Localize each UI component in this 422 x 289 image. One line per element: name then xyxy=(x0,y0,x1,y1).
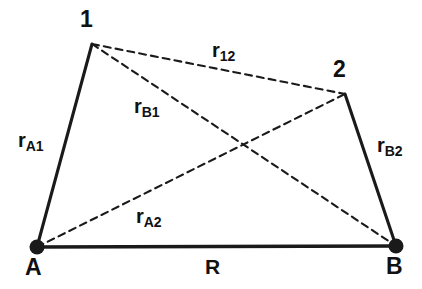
edge-label-base: r xyxy=(18,129,26,151)
edge-label-subscript: B1 xyxy=(142,104,160,120)
edge-label-subscript: A1 xyxy=(26,138,44,154)
edge-label-base: r xyxy=(377,134,385,156)
edge-label-base: r xyxy=(136,205,144,227)
edge-label-r-12: r12 xyxy=(212,40,235,60)
edge-A1 xyxy=(37,44,92,247)
edge-label-subscript: A2 xyxy=(144,214,162,230)
vertex-label-A: A xyxy=(25,256,42,279)
edge-label-subscript: 12 xyxy=(220,48,235,64)
vertex-label-2: 2 xyxy=(333,58,346,81)
vertex-label-1: 1 xyxy=(80,8,93,31)
edge-label-r-B1: rB1 xyxy=(134,96,159,116)
edge-label-r-A2: rA2 xyxy=(136,206,161,226)
edge-AB xyxy=(37,246,396,247)
edge-label-r-A1: rA1 xyxy=(18,130,43,150)
diagram-svg xyxy=(0,0,422,289)
edge-label-base: r xyxy=(134,95,142,117)
edge-label-subscript: B2 xyxy=(385,143,403,159)
edge-B2 xyxy=(345,94,396,246)
edge-label-base: R xyxy=(205,255,220,278)
edge-label-base: r xyxy=(212,39,220,61)
edge-A2 xyxy=(37,94,345,247)
edge-label-R: R xyxy=(205,256,220,277)
vertex-marker-A xyxy=(30,240,45,255)
figure-canvas: 1 2 A B rA1 rB2 R r12 rB1 rA2 xyxy=(0,0,422,289)
vertex-label-B: B xyxy=(386,255,403,278)
edge-label-r-B2: rB2 xyxy=(377,135,402,155)
vertex-marker-B xyxy=(389,239,404,254)
